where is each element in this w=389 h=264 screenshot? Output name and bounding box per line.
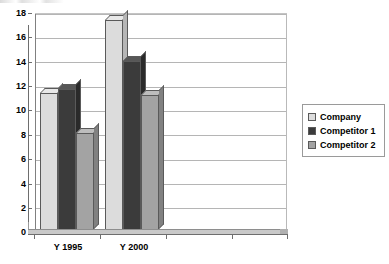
bar-company-y2000[interactable] [105, 20, 123, 234]
bar-front-face [76, 133, 94, 234]
y-axis-line [28, 25, 29, 235]
y-axis-tick-labels: 18 16 14 12 10 8 6 4 2 0 [0, 0, 26, 264]
bar-front-face [123, 61, 141, 234]
y-tick-mark-12 [28, 86, 32, 87]
legend-item-competitor2[interactable]: Competitor 2 [308, 138, 380, 151]
legend-label-competitor2: Competitor 2 [320, 140, 376, 150]
y-tick-mark-10 [28, 110, 32, 111]
y-tick-label-18: 18 [2, 9, 26, 18]
bar-front-face [58, 89, 76, 234]
legend-label-company: Company [320, 112, 361, 122]
x-tick-mark-1 [100, 235, 101, 239]
gridline-16 [36, 38, 286, 39]
bar-front-face [105, 20, 123, 234]
bar-front-face [141, 95, 159, 234]
y-tick-mark-18 [28, 13, 32, 14]
y-tick-mark-2 [28, 208, 32, 209]
bar-side-face [159, 85, 164, 229]
x-axis-label-y1995: Y 1995 [38, 242, 98, 252]
y-tick-mark-4 [28, 184, 32, 185]
bar-side-face [94, 123, 99, 229]
x-tick-mark-4 [287, 235, 288, 239]
legend-swatch-competitor1-icon [308, 127, 316, 135]
y-tick-label-4: 4 [2, 180, 26, 189]
bar-competitor1-y2000[interactable] [123, 61, 141, 234]
legend-item-competitor1[interactable]: Competitor 1 [308, 124, 380, 137]
chart-legend: Company Competitor 1 Competitor 2 [302, 104, 385, 157]
bar-front-face [40, 93, 58, 234]
y-tick-mark-16 [28, 37, 32, 38]
y-tick-mark-14 [28, 62, 32, 63]
y-tick-label-12: 12 [2, 82, 26, 91]
bar-chart: 18 16 14 12 10 8 6 4 2 0 [0, 0, 389, 264]
y-tick-label-10: 10 [2, 106, 26, 115]
bar-competitor2-y1995[interactable] [76, 133, 94, 234]
y-tick-label-16: 16 [2, 33, 26, 42]
y-tick-label-2: 2 [2, 204, 26, 213]
x-axis-line [28, 234, 288, 235]
y-tick-label-6: 6 [2, 155, 26, 164]
x-tick-mark-3 [232, 235, 233, 239]
gridline-18 [36, 14, 286, 15]
legend-label-competitor1: Competitor 1 [320, 126, 376, 136]
bar-competitor1-y1995[interactable] [58, 89, 76, 234]
legend-swatch-company-icon [308, 113, 316, 121]
y-tick-mark-6 [28, 159, 32, 160]
x-tick-mark-0 [34, 235, 35, 239]
plot-back-wall-top-edge [35, 13, 287, 14]
y-tick-mark-8 [28, 135, 32, 136]
x-axis-label-y2000: Y 2000 [104, 242, 164, 252]
legend-item-company[interactable]: Company [308, 110, 380, 123]
bar-competitor2-y2000[interactable] [141, 95, 159, 234]
legend-swatch-competitor2-icon [308, 141, 316, 149]
y-tick-label-14: 14 [2, 58, 26, 67]
gridline-14 [36, 62, 286, 63]
x-tick-mark-2 [166, 235, 167, 239]
y-tick-label-0: 0 [2, 228, 26, 237]
y-tick-label-8: 8 [2, 131, 26, 140]
bar-company-y1995[interactable] [40, 93, 58, 234]
